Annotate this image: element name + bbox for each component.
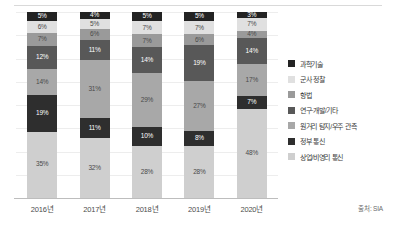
- bar-segment-label: 10%: [141, 133, 153, 140]
- source-note: 출처: SIA: [358, 203, 383, 213]
- bar-segment-label: 7%: [143, 38, 152, 45]
- stacked-bar[interactable]: 4%5%6%11%31%11%32%: [80, 12, 110, 198]
- bar-segment[interactable]: 7%: [132, 34, 162, 47]
- bar-segment-label: 7%: [247, 21, 256, 28]
- bar-segment[interactable]: 31%: [80, 60, 110, 118]
- x-axis-tick-label: 2017년: [70, 203, 120, 214]
- bar-segment[interactable]: 4%: [80, 12, 110, 19]
- bar-segment[interactable]: 8%: [184, 131, 214, 146]
- bar-segment[interactable]: 6%: [184, 34, 214, 45]
- bar-segment-label: 5%: [38, 13, 47, 20]
- legend-item[interactable]: 상업/비영리 통신: [288, 149, 392, 165]
- bar-segment-label: 31%: [88, 86, 100, 93]
- bar-segment-label: 28%: [141, 169, 153, 176]
- bar-segment[interactable]: 28%: [184, 146, 214, 198]
- legend-item-label: 과학기술: [300, 59, 323, 69]
- bar-segment-label: 5%: [143, 13, 152, 20]
- legend-item-label: 연구·개발/기타: [300, 105, 338, 115]
- bar-segment-label: 12%: [36, 54, 48, 61]
- plot-area: 5%6%7%12%14%19%35%4%5%6%11%31%11%32%5%7%…: [16, 12, 278, 198]
- bar-segment-label: 48%: [246, 150, 258, 157]
- bar-segment[interactable]: 14%: [132, 47, 162, 73]
- bar-segment[interactable]: 7%: [184, 21, 214, 34]
- chart-legend: 과학기술군사 정찰항법연구·개발/기타원거리 탐지/우주 관측정부 통신상업/비…: [288, 56, 392, 165]
- stacked-bar[interactable]: 3%7%4%14%17%7%48%: [237, 12, 267, 198]
- legend-item-label: 정부 통신: [300, 136, 324, 146]
- legend-item[interactable]: 정부 통신: [288, 134, 392, 150]
- bar-segment[interactable]: 5%: [27, 12, 57, 21]
- legend-item[interactable]: 원거리 탐지/우주 관측: [288, 118, 392, 134]
- bar-segment-label: 8%: [195, 135, 204, 142]
- bar-segment[interactable]: 48%: [237, 109, 267, 198]
- bar-segment-label: 5%: [90, 21, 99, 28]
- bar-segment[interactable]: 28%: [132, 146, 162, 198]
- legend-item-label: 원거리 탐지/우주 관측: [300, 121, 356, 131]
- bar-segment[interactable]: 14%: [27, 69, 57, 96]
- bar-segment-label: 7%: [38, 36, 47, 43]
- bar-segment[interactable]: 17%: [237, 64, 267, 96]
- legend-item-label: 항법: [300, 90, 311, 100]
- bar-segment-label: 35%: [36, 161, 48, 168]
- bar-segment[interactable]: 29%: [132, 73, 162, 127]
- legend-item[interactable]: 항법: [288, 87, 392, 103]
- x-axis-tick-label: 2020년: [227, 203, 277, 214]
- bar-segment[interactable]: 6%: [80, 29, 110, 40]
- bar-segment-label: 29%: [141, 97, 153, 104]
- bar-segment[interactable]: 11%: [80, 40, 110, 60]
- bar-segment-label: 6%: [195, 37, 204, 44]
- bar-segment[interactable]: 7%: [132, 21, 162, 34]
- legend-swatch-icon: [288, 91, 295, 98]
- bar-segment[interactable]: 19%: [184, 45, 214, 80]
- legend-swatch-icon: [288, 60, 295, 67]
- legend-swatch-icon: [288, 153, 295, 160]
- bar-segment-label: 28%: [193, 169, 205, 176]
- bar-segment[interactable]: 11%: [80, 118, 110, 138]
- chart-page: 5%6%7%12%14%19%35%4%5%6%11%31%11%32%5%7%…: [0, 0, 395, 238]
- bar-segment-label: 19%: [36, 110, 48, 117]
- bar-segment-label: 27%: [193, 103, 205, 110]
- x-axis-line: [14, 198, 278, 199]
- bar-segment[interactable]: 7%: [237, 18, 267, 31]
- bar-segment[interactable]: 14%: [237, 38, 267, 64]
- legend-item[interactable]: 연구·개발/기타: [288, 103, 392, 119]
- bar-segment[interactable]: 35%: [27, 132, 57, 198]
- stacked-bar[interactable]: 5%7%7%14%29%10%28%: [132, 12, 162, 198]
- bar-segment-label: 11%: [89, 47, 101, 54]
- bar-segment-label: 4%: [247, 31, 256, 38]
- bar-segment[interactable]: 12%: [27, 46, 57, 69]
- bar-segment[interactable]: 19%: [27, 95, 57, 131]
- legend-item[interactable]: 과학기술: [288, 56, 392, 72]
- bar-segment-label: 14%: [141, 57, 153, 64]
- bar-segment-label: 4%: [90, 12, 99, 19]
- bar-segment-label: 7%: [247, 99, 256, 106]
- bar-segment[interactable]: 6%: [27, 21, 57, 32]
- bar-segment[interactable]: 5%: [80, 19, 110, 28]
- bar-segment-label: 6%: [38, 24, 47, 31]
- bar-segment-label: 19%: [193, 60, 205, 67]
- bar-segment-label: 6%: [90, 31, 99, 38]
- legend-swatch-icon: [288, 122, 295, 129]
- legend-item[interactable]: 군사 정찰: [288, 72, 392, 88]
- bar-segment[interactable]: 5%: [132, 12, 162, 21]
- bar-segment-label: 32%: [88, 165, 100, 172]
- legend-swatch-icon: [288, 107, 295, 114]
- legend-item-label: 상업/비영리 통신: [300, 152, 343, 162]
- bar-segment[interactable]: 5%: [184, 12, 214, 21]
- bar-segment[interactable]: 32%: [80, 138, 110, 198]
- legend-swatch-icon: [288, 76, 295, 83]
- bar-segment[interactable]: 4%: [237, 31, 267, 38]
- x-axis-tick-label: 2018년: [122, 203, 172, 214]
- bar-segment[interactable]: 7%: [27, 33, 57, 46]
- bar-segment-label: 14%: [36, 79, 48, 86]
- bar-segment-label: 5%: [195, 13, 204, 20]
- bar-segment-label: 14%: [246, 48, 258, 55]
- bar-segment[interactable]: 10%: [132, 127, 162, 146]
- bar-segment-label: 7%: [195, 25, 204, 32]
- bar-segment[interactable]: 7%: [237, 96, 267, 109]
- stacked-bar[interactable]: 5%7%6%19%27%8%28%: [184, 12, 214, 198]
- x-axis-tick-label: 2016년: [17, 203, 67, 214]
- bar-segment[interactable]: 27%: [184, 81, 214, 131]
- bar-segment-label: 7%: [143, 25, 152, 32]
- stacked-bar[interactable]: 5%6%7%12%14%19%35%: [27, 12, 57, 198]
- legend-item-label: 군사 정찰: [300, 74, 324, 84]
